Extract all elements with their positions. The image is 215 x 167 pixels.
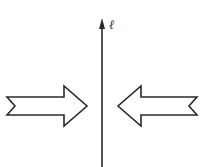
- left-pointing-arrow-icon: [118, 86, 197, 126]
- diagram-svg: [0, 0, 215, 167]
- right-pointing-arrow-icon: [7, 86, 87, 126]
- line-arrowhead-icon: [99, 18, 105, 29]
- diagram-canvas: ℓ: [0, 0, 215, 167]
- line-label: ℓ: [109, 17, 114, 33]
